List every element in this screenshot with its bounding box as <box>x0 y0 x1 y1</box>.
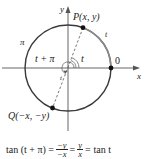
formula-equals-2: = <box>85 144 91 155</box>
y-axis-arrow-icon <box>66 6 71 13</box>
angle-t-arc <box>71 61 76 69</box>
formula-equals-1: = <box>70 144 76 155</box>
arc-t-label: t <box>105 30 108 39</box>
formula-rhs: tan t <box>94 144 112 155</box>
y-axis-label: y <box>59 4 64 14</box>
arc-pi-label: π <box>20 37 25 47</box>
angle-t-label: t <box>81 53 84 64</box>
x-axis-arrow-icon <box>133 66 140 71</box>
point-q <box>50 106 55 111</box>
fraction-1-denominator: −x <box>57 150 67 158</box>
fraction-2-denominator: x <box>78 150 82 158</box>
angle-t-arc-outer <box>72 58 79 68</box>
x-axis-label: x <box>136 71 141 81</box>
angle-t-plus-pi-label: t + π <box>35 53 56 64</box>
fraction-neg-y-over-neg-x: −y −x <box>56 141 68 158</box>
unit-circle-diagram: y x P(x, y) Q(−x, −y) 0 t π t t + π t <box>0 0 150 159</box>
point-p <box>81 25 86 30</box>
point-origin-zero <box>109 66 114 71</box>
formula-lhs: tan (t + π) = <box>6 144 54 155</box>
fraction-y-over-x: y x <box>77 141 83 158</box>
small-t-label: t <box>60 74 63 82</box>
point-p-label: P(x, y) <box>72 11 100 23</box>
tangent-identity-formula: tan (t + π) = −y −x = y x = tan t <box>6 140 150 158</box>
zero-label: 0 <box>115 55 120 66</box>
point-q-label: Q(−x, −y) <box>8 110 50 122</box>
